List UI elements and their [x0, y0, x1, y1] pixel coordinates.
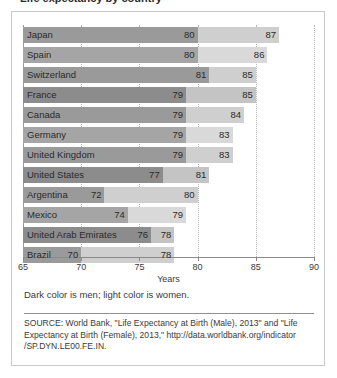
- value-label-female: 87: [266, 27, 277, 43]
- bar-row[interactable]: Brazil7078: [23, 247, 314, 263]
- value-label-male: 72: [91, 187, 102, 203]
- x-tick-85: [256, 257, 257, 261]
- value-label-male: 80: [184, 27, 195, 43]
- value-label-male: 74: [114, 207, 125, 223]
- bar-row[interactable]: Argentina7280: [23, 187, 314, 203]
- bar-row[interactable]: France7985: [23, 87, 314, 103]
- bar-row[interactable]: United Arab Emirates7678: [23, 227, 314, 243]
- chart-card: Japan8087Spain8086Switzerland8185France7…: [11, 11, 325, 366]
- category-label: Japan: [27, 27, 53, 43]
- legend-note: Dark color is men; light color is women.: [24, 289, 189, 300]
- value-label-female: 79: [172, 207, 183, 223]
- x-tick-label-80: 80: [193, 262, 203, 272]
- value-label-female: 85: [242, 67, 253, 83]
- value-label-female: 81: [196, 167, 207, 183]
- x-tick-label-75: 75: [134, 262, 144, 272]
- category-label: Spain: [27, 47, 51, 63]
- gridline-90: [314, 25, 315, 257]
- value-label-female: 83: [219, 127, 230, 143]
- category-label: United States: [27, 167, 84, 183]
- category-label: Switzerland: [27, 67, 76, 83]
- source-note: SOURCE: World Bank, "Life Expectancy at …: [24, 318, 316, 353]
- value-label-male: 79: [172, 87, 183, 103]
- bar-chart-plot: Japan8087Spain8086Switzerland8185France7…: [12, 12, 326, 260]
- figure-title: Life expectancy by country: [20, 0, 162, 4]
- value-label-female: 78: [161, 247, 172, 263]
- value-label-female: 78: [161, 227, 172, 243]
- x-tick-label-70: 70: [76, 262, 86, 272]
- bar-row[interactable]: Germany7983: [23, 127, 314, 143]
- x-tick-80: [198, 257, 199, 261]
- bar-row[interactable]: United Kingdom7983: [23, 147, 314, 163]
- value-label-female: 80: [184, 187, 195, 203]
- source-divider: [24, 313, 314, 314]
- category-label: Argentina: [27, 187, 68, 203]
- value-label-male: 76: [137, 227, 148, 243]
- value-label-male: 79: [172, 127, 183, 143]
- value-label-female: 83: [219, 147, 230, 163]
- figure-title-strip: Life expectancy by country: [0, 0, 337, 10]
- value-label-male: 80: [184, 47, 195, 63]
- value-label-female: 86: [254, 47, 265, 63]
- category-label: Brazil: [27, 247, 51, 263]
- value-label-female: 84: [231, 107, 242, 123]
- value-label-male: 81: [196, 67, 207, 83]
- bar-row[interactable]: Japan8087: [23, 27, 314, 43]
- x-tick-label-65: 65: [18, 262, 28, 272]
- x-tick-label-90: 90: [309, 262, 319, 272]
- x-tick-70: [81, 257, 82, 261]
- value-label-male: 70: [68, 247, 79, 263]
- bar-row[interactable]: Switzerland8185: [23, 67, 314, 83]
- x-tick-65: [23, 257, 24, 261]
- x-axis-title: Years: [157, 274, 180, 284]
- value-label-male: 79: [172, 147, 183, 163]
- category-label: United Arab Emirates: [27, 227, 117, 243]
- value-label-male: 77: [149, 167, 160, 183]
- x-tick-90: [314, 257, 315, 261]
- plot-area: Japan8087Spain8086Switzerland8185France7…: [23, 25, 314, 265]
- bar-row[interactable]: United States7781: [23, 167, 314, 183]
- bar-row[interactable]: Spain8086: [23, 47, 314, 63]
- bar-row[interactable]: Canada7984: [23, 107, 314, 123]
- bar-row[interactable]: Mexico7479: [23, 207, 314, 223]
- category-label: France: [27, 87, 57, 103]
- value-label-male: 79: [172, 107, 183, 123]
- category-label: United Kingdom: [27, 147, 95, 163]
- x-tick-label-85: 85: [251, 262, 261, 272]
- category-label: Mexico: [27, 207, 57, 223]
- category-label: Germany: [27, 127, 66, 143]
- value-label-female: 85: [242, 87, 253, 103]
- x-tick-75: [139, 257, 140, 261]
- life-expectancy-figure: Life expectancy by country Japan8087Spai…: [0, 0, 337, 378]
- category-label: Canada: [27, 107, 60, 123]
